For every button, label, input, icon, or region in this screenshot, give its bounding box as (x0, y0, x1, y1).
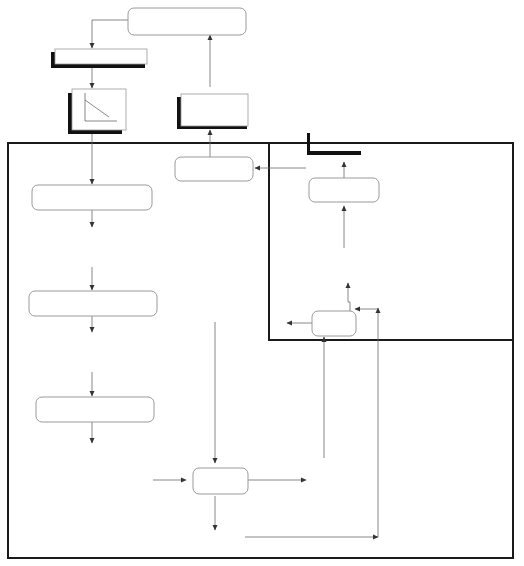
answer-top-artifact (177, 94, 248, 129)
coordinator-node (175, 157, 253, 181)
query-fragmenter-node (36, 397, 154, 422)
single-site-optimizer-node (29, 291, 157, 316)
query-artifact (51, 49, 147, 68)
local-execution-region (269, 143, 513, 340)
broker-node (193, 468, 248, 494)
bid-curve-artifact (68, 89, 126, 134)
client-application-node (128, 8, 246, 35)
sql-parser-node (32, 185, 152, 210)
executor-node (309, 178, 379, 202)
bidder-node (312, 311, 356, 336)
architecture-diagram (0, 0, 524, 566)
